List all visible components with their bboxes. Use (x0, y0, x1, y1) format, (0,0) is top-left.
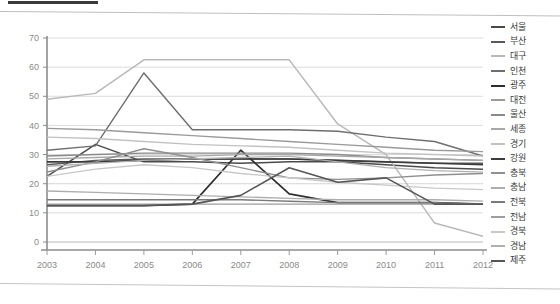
legend-item[interactable]: 전북 (491, 195, 553, 210)
y-tick-label: 60 (29, 62, 39, 72)
y-tick-label: 50 (29, 91, 39, 101)
legend-swatch-icon (491, 158, 505, 160)
legend-item[interactable]: 경북 (491, 224, 553, 239)
x-tick-labels: 2003200420052006200720082009201020112012 (37, 250, 493, 270)
legend-item-label: 부산 (510, 37, 526, 46)
x-tick-label: 2008 (279, 260, 299, 270)
legend-item-label: 전남 (510, 213, 526, 222)
series-line (47, 165, 483, 190)
chart-legend: 서울부산대구인천광주대전울산세종경기강원충북충남전북전남경북경남제주 (491, 20, 553, 268)
series-line (47, 73, 483, 156)
legend-item-label: 서울 (510, 23, 526, 32)
y-tick-label: 70 (29, 33, 39, 43)
legend-item-label: 인천 (510, 67, 526, 76)
legend-item[interactable]: 대구 (491, 49, 553, 64)
y-tick-label: 10 (29, 208, 39, 218)
legend-item[interactable]: 세종 (491, 122, 553, 137)
y-tick-labels: 010203040506070 (29, 33, 47, 247)
x-tick-label: 2011 (425, 260, 444, 270)
legend-swatch-icon (491, 201, 505, 203)
y-tick-label: 40 (29, 121, 39, 131)
legend-item[interactable]: 울산 (491, 108, 553, 123)
legend-item-label: 광주 (510, 81, 526, 90)
legend-swatch-icon (491, 99, 505, 101)
data-series-group (47, 60, 483, 236)
legend-item-label: 경기 (510, 140, 526, 149)
legend-item-label: 전북 (510, 198, 526, 207)
legend-item[interactable]: 경남 (491, 239, 553, 254)
header-rule (8, 1, 98, 4)
legend-item[interactable]: 충남 (491, 181, 553, 196)
legend-swatch-icon (491, 55, 505, 57)
legend-item-label: 충북 (510, 169, 526, 178)
header-ghost-text-right (480, 0, 550, 7)
y-tick-label: 0 (34, 237, 39, 247)
x-tick-label: 2010 (376, 260, 396, 270)
x-tick-label: 2004 (85, 260, 105, 270)
legend-swatch-icon (491, 26, 505, 28)
legend-swatch-icon (491, 114, 505, 116)
header-ghost-text-center (170, 0, 470, 7)
legend-item-label: 울산 (510, 110, 526, 119)
legend-item[interactable]: 인천 (491, 64, 553, 79)
legend-item[interactable]: 경기 (491, 137, 553, 152)
legend-item-label: 제주 (510, 256, 526, 265)
legend-swatch-icon (491, 172, 505, 174)
legend-swatch-icon (491, 85, 505, 87)
y-tick-label: 30 (29, 150, 39, 160)
legend-swatch-icon (491, 245, 505, 247)
legend-swatch-icon (491, 216, 505, 218)
legend-swatch-icon (491, 143, 505, 145)
legend-item[interactable]: 대전 (491, 93, 553, 108)
legend-item-label: 경북 (510, 227, 526, 236)
legend-item-label: 대전 (510, 96, 526, 105)
legend-swatch-icon (491, 128, 505, 130)
legend-item-label: 대구 (510, 52, 526, 61)
legend-item-label: 강원 (510, 154, 526, 163)
x-tick-label: 2009 (328, 260, 348, 270)
legend-item-label: 경남 (510, 242, 526, 251)
x-tick-label: 2012 (473, 260, 493, 270)
chart-plot-svg: 010203040506070 200320042005200620072008… (0, 12, 556, 280)
legend-swatch-icon (491, 260, 505, 262)
legend-item[interactable]: 서울 (491, 20, 553, 35)
legend-swatch-icon (491, 231, 505, 233)
document-header-strip (0, 0, 556, 10)
legend-item[interactable]: 부산 (491, 35, 553, 50)
y-tick-label: 20 (29, 179, 39, 189)
legend-item[interactable]: 강원 (491, 151, 553, 166)
line-chart: 010203040506070 200320042005200620072008… (0, 12, 556, 280)
page-rule-bottom (0, 283, 560, 289)
legend-swatch-icon (491, 187, 505, 189)
legend-item-label: 세종 (510, 125, 526, 134)
legend-swatch-icon (491, 41, 505, 43)
x-tick-label: 2005 (134, 260, 154, 270)
legend-item-label: 충남 (510, 183, 526, 192)
x-tick-label: 2007 (231, 260, 251, 270)
series-line (47, 60, 483, 236)
legend-swatch-icon (491, 70, 505, 72)
legend-item[interactable]: 제주 (491, 254, 553, 269)
x-tick-label: 2006 (182, 260, 202, 270)
legend-item[interactable]: 광주 (491, 78, 553, 93)
x-tick-label: 2003 (37, 260, 57, 270)
legend-item[interactable]: 전남 (491, 210, 553, 225)
legend-item[interactable]: 충북 (491, 166, 553, 181)
